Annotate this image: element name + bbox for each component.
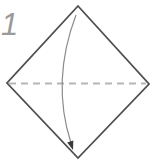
origami-diagram-canvas (0, 0, 155, 165)
origami-step-diagram: 1 (0, 0, 155, 165)
paper-square (7, 6, 149, 158)
